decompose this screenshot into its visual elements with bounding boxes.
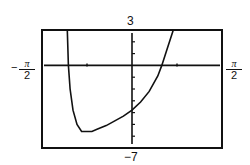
function-curve [67,30,173,132]
plot-area [0,0,250,165]
axes [42,30,222,148]
